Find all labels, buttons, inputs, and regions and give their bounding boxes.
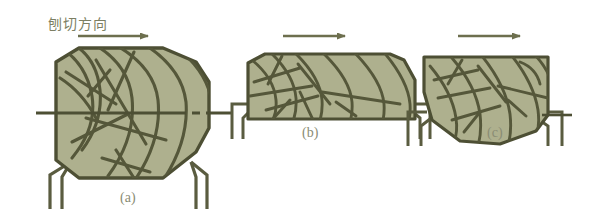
panel-caption-b: (b) bbox=[302, 125, 318, 141]
panel-caption-a: (a) bbox=[120, 190, 136, 206]
direction-label: 刨切方向 bbox=[48, 13, 108, 33]
log-body-c bbox=[424, 57, 548, 144]
panel-b bbox=[232, 50, 430, 139]
panel-a bbox=[36, 40, 232, 209]
panel-caption-c: (c) bbox=[487, 125, 503, 141]
clamp-right-a bbox=[191, 162, 207, 209]
wood-slicing-figure: 刨切方向 (a) (b) (c) bbox=[0, 0, 598, 224]
figure-canvas bbox=[0, 0, 598, 224]
